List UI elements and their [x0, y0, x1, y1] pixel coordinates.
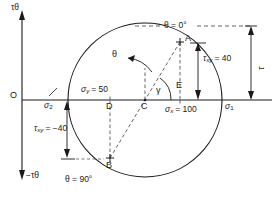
mohrs-circle-figure: τθ −τθ O σ1 σ2 A B C D E θ = 0° θ = 90° [0, 0, 279, 197]
theta-arc-arrowhead [128, 55, 135, 62]
tau-theta-positive-text: τθ [11, 2, 19, 12]
sigma1-label: σ1 [225, 102, 234, 112]
sigma-y-label: σy= 50 [81, 85, 108, 95]
tau-xy-negative-arrowhead-down [64, 149, 70, 158]
tau-xy-negative-value: = −40 [45, 123, 67, 133]
theta-arc-text: θ [112, 49, 117, 59]
sigma2-leader-line [49, 88, 57, 96]
radius-measure-arrowhead-top [248, 26, 254, 35]
gamma-arc-label: γ [156, 86, 161, 95]
tau-xy-positive-value: = 40 [214, 53, 231, 63]
theta-arc-label: θ [112, 50, 117, 59]
sigma2-subscript: 2 [49, 103, 52, 110]
sigma2-label: σ2 [44, 101, 53, 111]
gamma-arc [160, 78, 171, 100]
origin-text: O [10, 90, 17, 100]
point-B-label: B [106, 161, 112, 170]
point-C-label: C [141, 102, 148, 111]
point-A-text: A [185, 33, 191, 43]
axis-label-tau-theta-negative: −τθ [26, 171, 39, 180]
sigma-x-subscript: x [170, 107, 173, 114]
point-E-text: E [176, 80, 182, 90]
origin-label: O [10, 91, 17, 100]
axis-label-tau-theta-positive: τθ [11, 3, 19, 12]
point-B-text: B [106, 160, 112, 170]
gamma-arc-text: γ [156, 85, 161, 95]
theta-zero-text: θ = 0° [164, 20, 187, 30]
radius-measure-arrowhead-bottom [248, 91, 254, 100]
tau-xy-positive-subscript: xy [206, 56, 212, 63]
point-D-text: D [106, 101, 113, 111]
sigma-x-label: σx= 100 [165, 105, 197, 115]
sigma-y-value: = 50 [91, 84, 108, 94]
tau-xy-positive-measure [190, 43, 206, 100]
theta-ninety-text: θ = 90° [65, 174, 92, 184]
radius-tau-text: τ [256, 67, 266, 70]
sigma1-subscript: 1 [230, 104, 233, 111]
tau-xy-negative-label: τxy= −40 [34, 124, 67, 134]
radius-measure-arrow [245, 26, 257, 100]
tau-xy-positive-label: τxy= 40 [203, 54, 231, 64]
mohrs-circle-svg [0, 0, 279, 197]
theta-ninety-label: θ = 90° [65, 175, 92, 184]
point-E-label: E [176, 81, 182, 90]
sigma-x-value: = 100 [175, 104, 197, 114]
vertical-axis-top-arrowhead [19, 10, 25, 20]
point-C-text: C [141, 101, 148, 111]
point-D-label: D [106, 102, 113, 111]
sigma-y-subscript: y [86, 87, 89, 94]
tau-xy-negative-subscript: xy [37, 126, 43, 133]
point-A-label: A [185, 34, 191, 43]
tau-xy-negative-arrowhead-up [64, 101, 70, 110]
vertical-axis-bottom-arrowhead [19, 170, 25, 180]
radius-tau-label: τ [257, 67, 266, 70]
tau-theta-negative-text: −τθ [26, 170, 39, 180]
tau-xy-positive-arrowhead-down [195, 90, 201, 100]
axis-group [19, 10, 272, 180]
tau-xy-negative-measure [61, 101, 104, 159]
theta-zero-label: θ = 0° [164, 21, 187, 30]
